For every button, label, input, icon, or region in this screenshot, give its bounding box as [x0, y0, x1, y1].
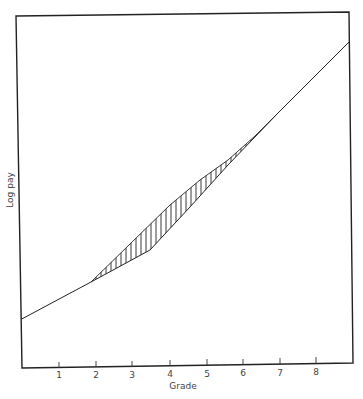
chart-figure: 1 2 3 4 5 6 7 8 Grade Log pay	[0, 0, 363, 399]
x-tick-label: 8	[313, 367, 319, 377]
x-axis-label: Grade	[169, 381, 197, 391]
y-axis-label: Log pay	[5, 172, 15, 208]
x-tick-label: 3	[129, 370, 135, 380]
x-tick-label: 5	[204, 369, 210, 379]
x-tick-label: 6	[240, 368, 246, 378]
plot-frame	[16, 12, 353, 368]
x-axis-tick-labels: 1 2 3 4 5 6 7 8	[56, 367, 319, 380]
pay-curve	[18, 40, 352, 321]
x-tick-label: 7	[277, 368, 283, 378]
hatched-region	[91, 113, 278, 282]
x-tick-label: 1	[56, 370, 62, 380]
x-tick-label: 4	[167, 369, 173, 379]
x-tick-label: 2	[93, 370, 99, 380]
